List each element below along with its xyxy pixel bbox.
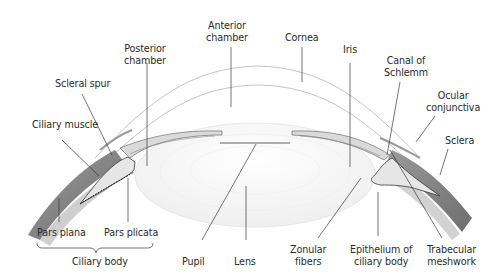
label-ocular-conjunctiva: Ocular conjunctiva xyxy=(426,90,480,113)
label-zonular-fibers: Zonular fibers xyxy=(290,244,326,267)
label-ciliary-body: Ciliary body xyxy=(72,256,128,268)
label-anterior-chamber: Anterior chamber xyxy=(206,20,248,43)
label-cornea: Cornea xyxy=(285,32,319,44)
label-sclera: Sclera xyxy=(445,135,474,147)
label-posterior-chamber: Posterior chamber xyxy=(124,43,166,66)
ciliary-body-brace xyxy=(37,243,153,253)
label-ciliary-muscle: Ciliary muscle xyxy=(32,119,98,131)
label-pars-plana: Pars plana xyxy=(37,227,86,239)
label-scleral-spur: Scleral spur xyxy=(55,78,110,90)
label-pars-plicata: Pars plicata xyxy=(104,227,158,239)
label-trabecular-meshwork: Trabecular meshwork xyxy=(427,244,476,267)
eye-anatomy-diagram: Anterior chamber Cornea Posterior chambe… xyxy=(0,0,497,279)
label-lens: Lens xyxy=(234,256,256,268)
label-epithelium-of-ciliary-body: Epithelium of ciliary body xyxy=(350,244,412,267)
label-pupil: Pupil xyxy=(182,256,205,268)
label-canal-of-schlemm: Canal of Schlemm xyxy=(384,55,428,78)
label-iris: Iris xyxy=(343,44,357,56)
